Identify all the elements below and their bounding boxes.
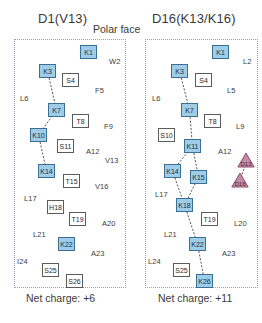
residue-t8: T8 <box>72 114 89 128</box>
residue-f9: F9 <box>104 123 113 131</box>
panel-title-right: D16(K13/K16) <box>152 11 236 26</box>
residue-s4: S4 <box>195 73 212 87</box>
residue-a20: A20 <box>102 220 116 228</box>
residue-k1: K1 <box>80 45 97 59</box>
residue-t19: T19 <box>201 212 218 226</box>
residue-a23: A23 <box>91 250 105 258</box>
residue-s10: S10 <box>158 128 175 142</box>
residue-l2: L2 <box>243 58 252 66</box>
residue-d13: D13 <box>237 152 255 168</box>
residue-l6: L6 <box>20 95 29 103</box>
residue-l21: L21 <box>164 231 177 239</box>
residue-l24: L24 <box>148 258 161 266</box>
residue-k18: K18 <box>176 198 193 212</box>
residue-l17: L17 <box>155 191 168 199</box>
residue-a12: A12 <box>218 148 232 156</box>
residue-k11: K11 <box>184 139 201 153</box>
residue-t15: T15 <box>63 174 80 188</box>
panel-title-left: D1(V13) <box>38 11 87 26</box>
residue-k14: K14 <box>164 164 181 178</box>
net-charge-right: Net charge: +11 <box>158 292 232 304</box>
residue-l6: L6 <box>152 95 161 103</box>
residue-v16: V16 <box>95 183 109 191</box>
residue-k26: K26 <box>196 274 213 288</box>
residue-l21: L21 <box>33 231 46 239</box>
residue-l17: L17 <box>24 195 37 203</box>
residue-t19: T19 <box>69 212 86 226</box>
residue-k1: K1 <box>212 45 229 59</box>
residue-k7: K7 <box>181 103 198 117</box>
residue-k15: K15 <box>190 170 207 184</box>
residue-s25: S25 <box>173 263 190 277</box>
residue-k7: K7 <box>48 103 65 117</box>
residue-l9: L9 <box>236 123 245 131</box>
residue-k10: K10 <box>30 128 47 142</box>
residue-a23: A23 <box>222 250 236 258</box>
net-charge-left: Net charge: +6 <box>26 292 95 304</box>
residue-h18: H18 <box>47 200 64 214</box>
residue-i24: I24 <box>17 258 28 266</box>
residue-k22: K22 <box>189 237 206 251</box>
residue-k22: K22 <box>58 237 75 251</box>
residue-l20: L20 <box>234 220 247 228</box>
polar-face-label: Polar face <box>93 23 140 35</box>
residue-d16: D16 <box>231 172 249 188</box>
residue-s26: S26 <box>66 274 83 288</box>
residue-w2: W2 <box>109 58 120 66</box>
residue-a12: A12 <box>86 148 100 156</box>
residue-t8: T8 <box>204 114 221 128</box>
residue-v13: V13 <box>105 157 119 165</box>
residue-label: D16 <box>234 181 245 187</box>
residue-s11: S11 <box>57 139 74 153</box>
residue-f5: F5 <box>95 87 104 95</box>
residue-k3: K3 <box>39 64 56 78</box>
residue-k14: K14 <box>38 164 55 178</box>
residue-s4: S4 <box>62 73 79 87</box>
residue-l5: L5 <box>227 87 236 95</box>
residue-s25: S25 <box>42 263 59 277</box>
residue-k3: K3 <box>171 64 188 78</box>
residue-label: D13 <box>240 161 251 167</box>
